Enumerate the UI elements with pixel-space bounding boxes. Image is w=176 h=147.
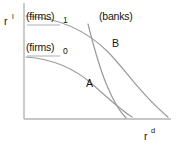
diagram-canvas [0, 0, 176, 147]
curve-label-firms-1: (firms) [26, 11, 54, 22]
x-axis-label-superscript: d [151, 127, 155, 135]
point-label-b: B [112, 38, 119, 49]
point-label-a: A [86, 78, 93, 89]
curve-firms-1 [26, 16, 168, 117]
y-axis-label: r [4, 16, 8, 27]
curve-label-firms-0-subscript: 0 [63, 47, 68, 56]
economics-diagram: r l r d (firms) 1 (firms) 0 (banks) B A [0, 0, 176, 147]
curve-banks [88, 24, 126, 118]
y-axis-label-superscript: l [12, 13, 14, 21]
curve-firms-0 [26, 57, 132, 117]
curve-label-firms-1-subscript: 1 [63, 16, 68, 25]
curve-label-firms-0: (firms) [26, 42, 54, 53]
curve-label-banks: (banks) [99, 11, 133, 22]
x-axis-label: r [144, 131, 148, 142]
